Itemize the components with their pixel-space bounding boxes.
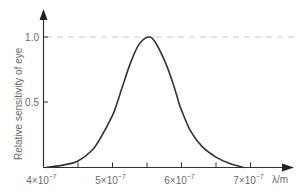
sensitivity-curve — [46, 37, 244, 168]
y-axis-label: Relative sensitivity of eye — [13, 47, 24, 160]
x-axis-arrow-icon — [282, 164, 294, 172]
x-tick-labels: 4×10−75×10−76×10−77×10−7 — [26, 173, 264, 186]
x-tick-label: 7×10−7 — [233, 173, 264, 186]
sensitivity-chart: 1.0 0.5 4×10−75×10−76×10−77×10−7 Relativ… — [0, 0, 301, 193]
x-tick-label: 4×10−7 — [26, 173, 57, 186]
y-tick-label-1: 1.0 — [25, 32, 39, 43]
x-axis-label: λ/m — [272, 174, 288, 185]
y-axis-arrow-icon — [40, 9, 48, 20]
x-ticks — [78, 163, 251, 168]
y-tick-label-05: 0.5 — [25, 97, 39, 108]
x-tick-label: 6×10−7 — [164, 173, 195, 186]
x-tick-label: 5×10−7 — [95, 173, 126, 186]
